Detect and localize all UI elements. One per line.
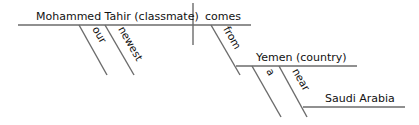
sentence-diagram: Mohammed Tahir (classmate) comes our new… [0, 0, 419, 125]
modifier-newest: newest [116, 24, 145, 63]
subject-text: Mohammed Tahir (classmate) [36, 10, 199, 23]
verb-text: comes [205, 10, 241, 23]
preposition-from: from [221, 24, 244, 51]
modifier-a: a [264, 66, 278, 78]
preposition-near: near [290, 66, 313, 93]
object-yemen: Yemen (country) [255, 51, 347, 64]
object-saudi-arabia: Saudi Arabia [325, 92, 395, 105]
